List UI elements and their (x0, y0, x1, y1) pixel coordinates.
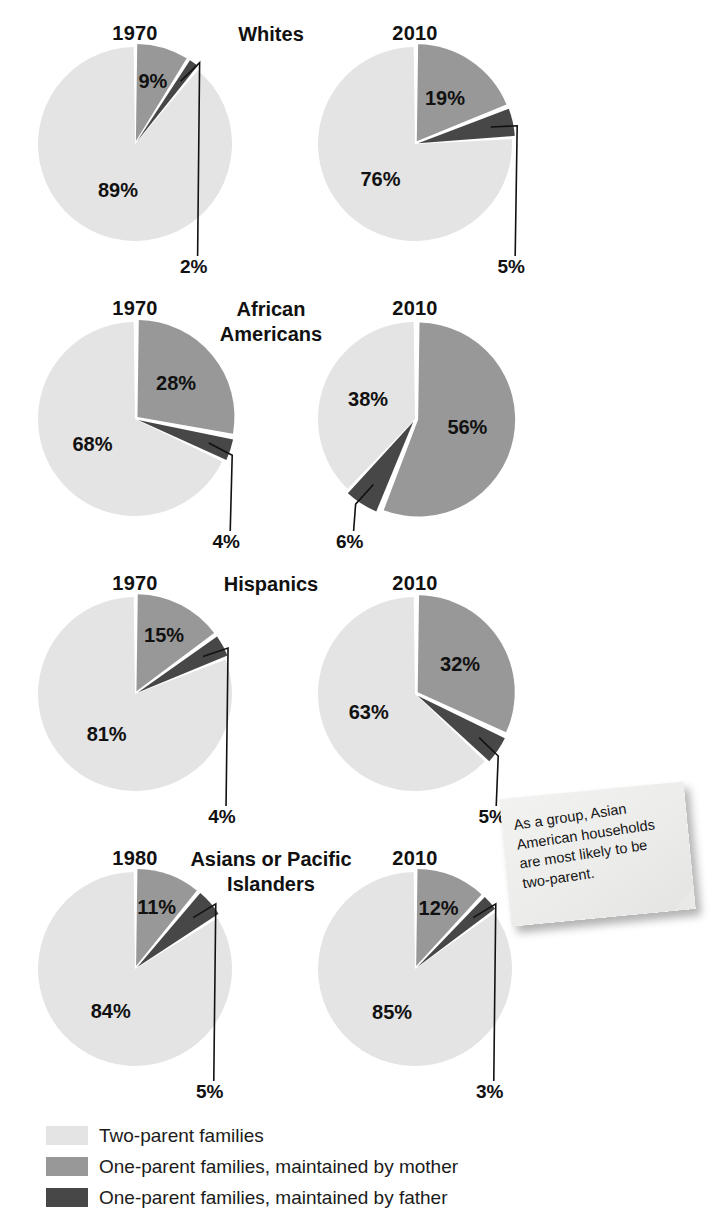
pie-label-mother: 56% (447, 416, 487, 438)
pie-row-whites: 1970Whites201089%9%2%76%19%5% (0, 0, 723, 275)
legend-swatch-icon (46, 1188, 88, 1207)
pie-chart-figure: 1970Whites201089%9%2%76%19%5%1970African… (0, 0, 723, 1216)
pie-label-mother: 32% (440, 653, 480, 675)
pie-right: 76%19%5% (315, 44, 555, 276)
pie-label-mother: 12% (419, 897, 459, 919)
pie-left: 84%11%5% (35, 869, 275, 1101)
legend-item: One-parent families, maintained by fathe… (0, 1182, 723, 1213)
pie-container-left: 84%11%5% (35, 869, 275, 1101)
pie-container-right: 76%19%5% (315, 44, 555, 276)
pie-right: 63%32%5% (315, 594, 555, 826)
legend-label: One-parent families, maintained by mothe… (99, 1156, 458, 1178)
pie-label-father: 5% (196, 1081, 224, 1102)
pie-right: 38%56%6% (315, 319, 555, 551)
pie-container-left: 68%28%4% (35, 319, 275, 551)
pie-label-two-parent: 81% (87, 723, 127, 745)
year-label-right: 2010 (330, 22, 500, 45)
pie-container-right: 38%56%6% (315, 319, 555, 551)
pie-label-mother: 19% (425, 87, 465, 109)
sticky-note: As a group, Asian American households ar… (499, 781, 695, 926)
sticky-note-text: As a group, Asian American households ar… (497, 777, 699, 931)
pie-label-mother: 11% (137, 896, 176, 918)
legend-item: Two-parent families (0, 1120, 723, 1151)
pie-label-two-parent: 85% (372, 1001, 412, 1023)
pie-container-right: 63%32%5% (315, 594, 555, 826)
pie-label-father: 4% (212, 531, 240, 552)
pie-label-father: 2% (180, 256, 208, 277)
pie-rows-container: 1970Whites201089%9%2%76%19%5%1970African… (0, 0, 723, 1100)
pie-label-father: 4% (208, 806, 236, 827)
pie-row-hispanics: 1970Hispanics201081%15%4%63%32%5% (0, 550, 723, 825)
pie-container-left: 89%9%2% (35, 44, 275, 276)
pie-container-left: 81%15%4% (35, 594, 275, 826)
pie-left: 81%15%4% (35, 594, 275, 826)
pie-label-two-parent: 76% (360, 168, 400, 190)
legend-label: Two-parent families (99, 1125, 264, 1147)
chart-legend: Two-parent familiesOne-parent families, … (0, 1120, 723, 1213)
pie-label-two-parent: 89% (98, 179, 138, 201)
pie-label-mother: 9% (138, 70, 167, 92)
pie-label-father: 3% (476, 1081, 504, 1102)
legend-swatch-icon (46, 1157, 88, 1176)
pie-label-two-parent: 38% (348, 388, 388, 410)
pie-label-mother: 28% (156, 372, 196, 394)
pie-left: 89%9%2% (35, 44, 275, 276)
pie-label-two-parent: 84% (91, 1000, 131, 1022)
pie-row-african-americans: 1970African Americans201068%28%4%38%56%6… (0, 275, 723, 550)
year-label-right: 2010 (330, 572, 500, 595)
legend-swatch-icon (46, 1126, 88, 1145)
pie-label-two-parent: 63% (349, 701, 389, 723)
legend-item: One-parent families, maintained by mothe… (0, 1151, 723, 1182)
legend-label: One-parent families, maintained by fathe… (99, 1187, 448, 1209)
year-label-right: 2010 (330, 847, 500, 870)
year-label-right: 2010 (330, 297, 500, 320)
pie-slice-two-parent (38, 47, 232, 241)
pie-left: 68%28%4% (35, 319, 275, 551)
pie-label-mother: 15% (144, 624, 184, 646)
pie-label-father: 5% (497, 256, 525, 277)
pie-label-father: 6% (336, 531, 364, 552)
pie-label-two-parent: 68% (72, 433, 112, 455)
